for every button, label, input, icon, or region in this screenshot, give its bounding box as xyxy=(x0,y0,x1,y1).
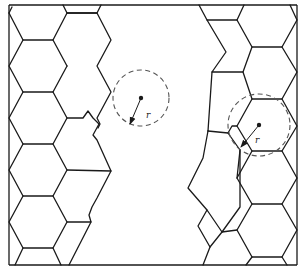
left-hexagonal-grains xyxy=(9,5,111,265)
radius-label-right: r xyxy=(255,135,260,145)
radius-arrow-left xyxy=(130,98,141,124)
amorphous-circle-group: r xyxy=(113,70,169,126)
radius-label-left: r xyxy=(146,110,151,120)
grain-diagram: r r xyxy=(0,0,305,271)
diagram-canvas: r r xyxy=(0,0,305,271)
right-hexagonal-grains xyxy=(188,5,297,265)
frame xyxy=(9,5,297,265)
